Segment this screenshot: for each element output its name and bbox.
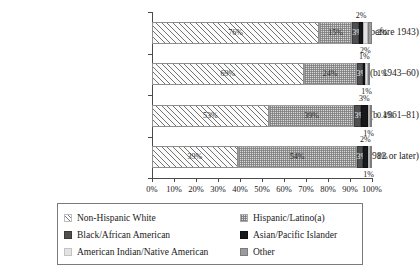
medium-gray-swatch (240, 248, 248, 256)
x-axis-tick-label: 70% (298, 184, 314, 194)
y-axis-tick (148, 12, 152, 13)
x-axis-tick (218, 178, 219, 182)
legend-label: Asian/Pacific Islander (253, 230, 337, 240)
bar-row: 53%39%3% (152, 105, 372, 127)
legend-item: Asian/Pacific Islander (240, 230, 366, 240)
segment-value-label: 3% (357, 146, 364, 168)
bar-segment (370, 146, 372, 168)
bar-segment (361, 105, 368, 127)
legend-label: Non-Hispanic White (77, 213, 156, 223)
segment-callout-label: 1% (363, 171, 374, 179)
x-axis-tick-label: 40% (232, 184, 248, 194)
x-axis-tick (196, 178, 197, 182)
segment-callout-label: 2% (360, 136, 371, 144)
bar-segment (370, 105, 372, 127)
segment-value-label: 54% (238, 146, 357, 168)
dark-gray-swatch (64, 231, 72, 239)
y-axis-tick (148, 95, 152, 96)
x-axis-tick-label: 20% (188, 184, 204, 194)
segment-value-label: 3% (354, 105, 361, 127)
bar-segment (368, 22, 372, 44)
near-black-swatch (240, 231, 248, 239)
x-axis-tick (350, 178, 351, 182)
x-axis-tick (152, 178, 153, 182)
bar-row: 69%24%3% (152, 63, 372, 85)
x-axis-tick-label: 30% (210, 184, 226, 194)
x-axis-tick (328, 178, 329, 182)
segment-value-label: 69% (152, 63, 304, 85)
x-axis-tick (262, 178, 263, 182)
bar-row: 76%15%3% (152, 22, 372, 44)
x-axis-tick-label: 80% (320, 184, 336, 194)
legend-item: American Indian/Native American (64, 247, 240, 257)
segment-callout-label: 0.4% (377, 112, 394, 120)
segment-callout-label: 3% (359, 95, 370, 103)
legend-label: American Indian/Native American (77, 247, 208, 257)
x-axis-tick-label: 90% (342, 184, 358, 194)
stacked-bar-chart: Pre-Vatican II (b. before 1943)Vatican I… (0, 0, 419, 273)
segment-callout-label: 2% (377, 29, 388, 37)
x-axis-tick-label: 60% (276, 184, 292, 194)
x-axis-tick-label: 10% (166, 184, 182, 194)
legend-label: Hispanic/Latino(a) (253, 213, 325, 223)
segment-value-label: 3% (357, 63, 364, 85)
legend-item: Black/African American (64, 230, 240, 240)
x-axis-tick-label: 0% (146, 184, 157, 194)
segment-callout-label: 1% (377, 153, 388, 161)
light-gray-swatch (64, 248, 72, 256)
segment-callout-label: 1% (359, 53, 370, 61)
x-axis-tick (174, 178, 175, 182)
x-axis-tick-label: 50% (254, 184, 270, 194)
y-axis-tick (148, 54, 152, 55)
x-axis-tick (284, 178, 285, 182)
segment-callout-label: 1% (377, 70, 388, 78)
legend-label: Black/African American (77, 230, 170, 240)
chart-legend: Non-Hispanic WhiteHispanic/Latino(a)Blac… (57, 203, 363, 265)
segment-value-label: 76% (152, 22, 319, 44)
x-axis-tick-label: 100% (362, 184, 382, 194)
segment-value-label: 3% (352, 22, 359, 44)
legend-item: Other (240, 247, 366, 257)
y-axis-tick (148, 137, 152, 138)
segment-value-label: 24% (304, 63, 357, 85)
segment-value-label: 15% (319, 22, 352, 44)
x-axis-tick (306, 178, 307, 182)
legend-label: Other (253, 247, 275, 257)
segment-value-label: 39% (269, 105, 355, 127)
segment-callout-label: 2% (356, 12, 367, 20)
legend-item: Hispanic/Latino(a) (240, 213, 366, 223)
checkered-dot-swatch (240, 214, 248, 222)
segment-value-label: 39% (152, 146, 238, 168)
diagonal-hatch-swatch (64, 214, 72, 222)
legend-item: Non-Hispanic White (64, 213, 240, 223)
bar-row: 39%54%3% (152, 146, 372, 168)
x-axis-tick (240, 178, 241, 182)
segment-value-label: 53% (152, 105, 269, 127)
bar-segment (368, 63, 370, 85)
